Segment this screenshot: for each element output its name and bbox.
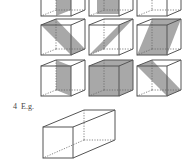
cube-r2-c0 xyxy=(41,60,85,96)
exercise-label: 4 E.g. xyxy=(13,102,34,111)
cube-r1-c1 xyxy=(89,19,133,55)
exercise-example-text: E.g. xyxy=(21,102,34,111)
cube-r2-c2 xyxy=(137,60,181,96)
cuboid-prism xyxy=(43,110,115,158)
cube-r1-c0 xyxy=(41,19,85,55)
cube-r2-c1 xyxy=(89,60,133,96)
cube-r0-c2 xyxy=(137,0,181,16)
cube-r0-c0 xyxy=(41,0,85,16)
exercise-number: 4 xyxy=(13,102,17,111)
symmetry-planes-figure: .edge { stroke: #555; stroke-width: 1; f… xyxy=(0,0,194,168)
cube-r1-c2 xyxy=(137,19,181,55)
cube-r0-c1 xyxy=(89,0,133,16)
